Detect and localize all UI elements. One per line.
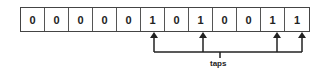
arrow-up-icon bbox=[199, 32, 207, 38]
arrow-up-icon bbox=[273, 32, 281, 38]
arrow-up-icon bbox=[298, 32, 306, 38]
tap-connector-lines bbox=[0, 0, 331, 73]
arrow-up-icon bbox=[150, 32, 158, 38]
taps-label: taps bbox=[210, 59, 226, 68]
